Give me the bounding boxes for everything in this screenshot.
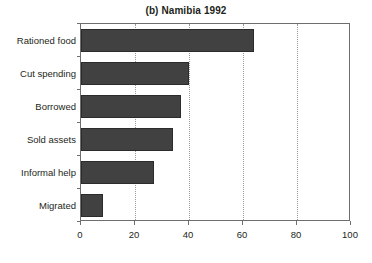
y-axis-tick [77,89,81,90]
x-axis: 020406080100 [0,221,372,261]
x-axis-label-60: 60 [237,229,248,240]
bar-band [81,29,349,52]
bar-band [81,128,349,151]
x-axis-label-20: 20 [129,229,140,240]
plot-area [80,23,350,221]
y-axis-label: Migrated [0,199,76,210]
x-axis-tick-60 [242,221,243,225]
x-axis-tick-20 [134,221,135,225]
x-axis-tick-40 [188,221,189,225]
x-axis-label-40: 40 [183,229,194,240]
bar[interactable] [81,62,189,85]
y-axis-tick [77,221,81,222]
y-axis-labels: Rationed foodCut spendingBorrowedSold as… [0,23,76,221]
y-axis-tick [77,56,81,57]
y-axis-label: Cut spending [0,67,76,78]
bar-band [81,95,349,118]
x-axis-label-100: 100 [342,229,358,240]
x-axis-tick-100 [350,221,351,225]
bar-chart: (b) Namibia 1992 Rationed foodCut spendi… [0,0,372,263]
y-axis-label: Sold assets [0,133,76,144]
chart-title: (b) Namibia 1992 [0,5,372,16]
y-axis-label: Borrowed [0,100,76,111]
x-axis-label-0: 0 [77,229,82,240]
y-axis-tick [77,122,81,123]
bar-band [81,62,349,85]
x-axis-label-80: 80 [291,229,302,240]
bar-band [81,161,349,184]
bar[interactable] [81,95,181,118]
y-axis-tick [77,188,81,189]
x-axis-tick-80 [296,221,297,225]
bars-layer [81,24,349,220]
bar[interactable] [81,161,154,184]
x-axis-tick-0 [80,221,81,225]
bar-band [81,194,349,217]
bar[interactable] [81,128,173,151]
y-axis-label: Rationed food [0,34,76,45]
bar[interactable] [81,194,103,217]
bar[interactable] [81,29,254,52]
y-axis-tick [77,23,81,24]
y-axis-tick [77,155,81,156]
y-axis-label: Informal help [0,166,76,177]
